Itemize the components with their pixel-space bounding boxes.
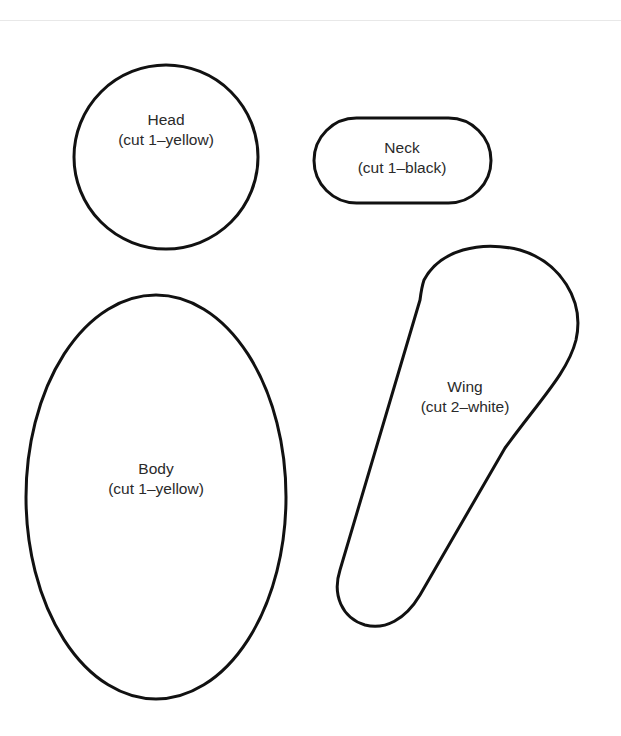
neck-instruction: (cut 1–black) bbox=[358, 158, 447, 178]
wing-label: Wing (cut 2–white) bbox=[421, 377, 510, 417]
wing-name: Wing bbox=[421, 377, 510, 397]
neck-name: Neck bbox=[358, 138, 447, 158]
pattern-canvas bbox=[0, 0, 621, 736]
body-label: Body (cut 1–yellow) bbox=[108, 459, 204, 499]
head-name: Head bbox=[118, 110, 214, 130]
neck-label: Neck (cut 1–black) bbox=[358, 138, 447, 178]
head-outline bbox=[74, 65, 258, 249]
head-instruction: (cut 1–yellow) bbox=[118, 130, 214, 150]
wing-outline bbox=[337, 246, 578, 626]
body-name: Body bbox=[108, 459, 204, 479]
head-label: Head (cut 1–yellow) bbox=[118, 110, 214, 150]
wing-instruction: (cut 2–white) bbox=[421, 397, 510, 417]
body-instruction: (cut 1–yellow) bbox=[108, 479, 204, 499]
